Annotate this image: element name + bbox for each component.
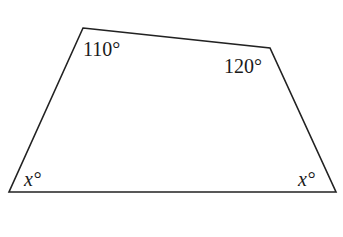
angle-label-top-right: 120° — [224, 55, 262, 77]
angle-label-top-left: 110° — [83, 38, 120, 60]
quadrilateral-diagram: 110° 120° x° x° — [0, 0, 343, 237]
angle-label-bottom-left: x° — [23, 168, 41, 190]
quadrilateral-shape — [9, 28, 336, 192]
angle-label-bottom-right: x° — [297, 168, 315, 190]
